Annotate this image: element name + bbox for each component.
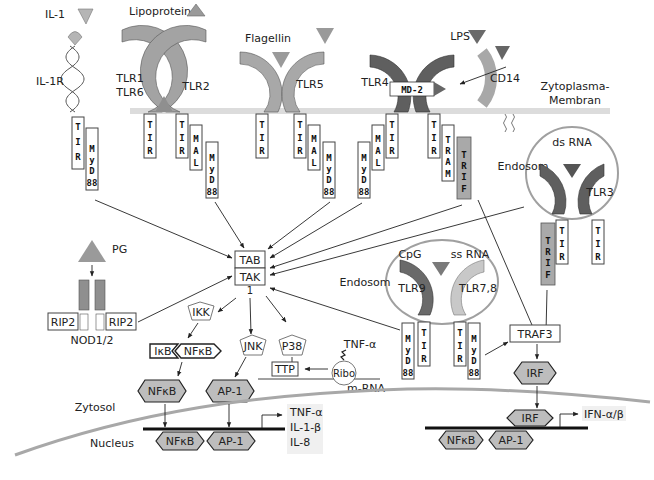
- svg-text:IKK: IKK: [192, 306, 210, 319]
- svg-text:AP-1: AP-1: [219, 435, 244, 448]
- svg-text:I: I: [259, 133, 264, 143]
- svg-text:T: T: [147, 120, 153, 130]
- svg-text:T: T: [445, 135, 451, 145]
- svg-text:TRAF3: TRAF3: [517, 328, 553, 341]
- tab-tak-complex: TAB TAK 1: [235, 251, 265, 296]
- svg-text:CD14: CD14: [490, 72, 520, 85]
- svg-text:NFκB: NFκB: [166, 435, 195, 448]
- il1-receptor-group: IL-1 IL-1R T I R M y D 88: [36, 8, 98, 190]
- svg-text:88: 88: [324, 187, 335, 197]
- svg-text:I: I: [421, 341, 426, 351]
- svg-text:y: y: [361, 164, 367, 174]
- svg-text:M: M: [375, 134, 381, 144]
- svg-text:T: T: [259, 120, 265, 130]
- tlr4-group: LPS TLR4 MD-2 CD14 T I R M A L M y D 88 …: [358, 30, 520, 199]
- svg-text:I: I: [389, 133, 394, 143]
- svg-text:TLR2: TLR2: [181, 80, 210, 93]
- svg-text:D: D: [405, 356, 411, 366]
- svg-text:M: M: [445, 169, 451, 179]
- svg-text:M: M: [311, 134, 317, 144]
- svg-text:R: R: [421, 354, 427, 364]
- svg-text:IκB: IκB: [154, 345, 171, 358]
- svg-text:P38: P38: [282, 340, 303, 353]
- svg-text:TLR4: TLR4: [360, 76, 389, 89]
- svg-text:M: M: [361, 153, 367, 163]
- cytosol-label: Zytosol: [75, 401, 116, 414]
- svg-text:R: R: [457, 354, 463, 364]
- svg-text:88: 88: [469, 368, 480, 378]
- pg-ligand-icon: [78, 240, 106, 262]
- tlr3-endosome-group: ds RNA Endosom TLR3 T I R T I R T R I F: [498, 127, 618, 285]
- svg-text:I: I: [559, 239, 564, 249]
- membrane-label-1: Zytoplasma-: [540, 80, 609, 93]
- svg-text:TLR9: TLR9: [397, 282, 426, 295]
- svg-text:R: R: [445, 146, 451, 156]
- svg-text:y: y: [209, 164, 215, 174]
- svg-text:M: M: [89, 144, 95, 154]
- ikb-nfkb-group: IκB NFκB NFκB AP-1: [138, 323, 254, 402]
- svg-text:R: R: [147, 146, 153, 156]
- svg-text:R: R: [431, 146, 437, 156]
- svg-text:y: y: [326, 164, 332, 174]
- membrane-label-2: Membran: [549, 94, 601, 107]
- svg-text:M: M: [209, 153, 215, 163]
- svg-text:I: I: [75, 137, 80, 147]
- svg-text:A: A: [375, 146, 381, 156]
- endosome-label-2: Endosom: [340, 276, 391, 289]
- svg-text:T: T: [431, 120, 437, 130]
- svg-text:R: R: [559, 252, 565, 262]
- il1r-label: IL-1R: [36, 75, 64, 88]
- svg-text:I: I: [457, 341, 462, 351]
- svg-text:R: R: [75, 152, 81, 162]
- svg-text:I: I: [431, 133, 436, 143]
- svg-text:M: M: [193, 134, 199, 144]
- svg-text:TLR5: TLR5: [295, 78, 324, 91]
- svg-text:F: F: [461, 184, 466, 194]
- svg-text:NFκB: NFκB: [184, 345, 213, 358]
- svg-text:y: y: [89, 155, 95, 165]
- svg-text:L: L: [193, 158, 199, 168]
- svg-text:AP-1: AP-1: [499, 434, 524, 447]
- svg-text:D: D: [326, 175, 332, 185]
- svg-text:MD-2: MD-2: [401, 85, 423, 95]
- flagellin-label: Flagellin: [245, 32, 291, 45]
- svg-text:ss RNA: ss RNA: [451, 248, 490, 261]
- svg-text:m-RNA: m-RNA: [347, 382, 386, 395]
- svg-text:R: R: [389, 146, 395, 156]
- svg-text:M: M: [405, 334, 411, 344]
- svg-text:R: R: [461, 161, 467, 171]
- svg-text:Ribo: Ribo: [333, 368, 355, 379]
- svg-text:TLR7,8: TLR7,8: [458, 282, 497, 295]
- svg-text:T: T: [75, 122, 81, 132]
- nucleus-label: Nucleus: [90, 437, 134, 450]
- svg-text:R: R: [297, 146, 303, 156]
- svg-text:R: R: [595, 252, 601, 262]
- svg-text:88: 88: [403, 368, 414, 378]
- svg-text:L: L: [311, 158, 317, 168]
- svg-text:L: L: [375, 158, 381, 168]
- cytokine-il8: IL-8: [290, 436, 310, 449]
- il1-label: IL-1: [45, 8, 65, 21]
- svg-text:NFκB: NFκB: [148, 385, 177, 398]
- svg-text:R: R: [259, 146, 265, 156]
- svg-text:I: I: [147, 133, 152, 143]
- lipoprotein-label: Lipoprotein: [129, 5, 191, 18]
- svg-text:R: R: [545, 247, 551, 257]
- svg-text:T: T: [461, 150, 467, 160]
- svg-text:TAB: TAB: [239, 254, 261, 267]
- svg-text:CpG: CpG: [398, 248, 421, 261]
- svg-text:88: 88: [87, 178, 98, 188]
- svg-text:NOD1/2: NOD1/2: [70, 334, 113, 347]
- svg-text:D: D: [361, 175, 367, 185]
- tlr5-ectodomain-left: [240, 52, 282, 112]
- svg-text:R: R: [179, 146, 185, 156]
- flagellin-ligand-icon: [316, 28, 334, 44]
- svg-text:I: I: [179, 133, 184, 143]
- svg-text:I: I: [461, 172, 466, 182]
- svg-text:T: T: [457, 328, 463, 338]
- svg-text:D: D: [209, 175, 215, 185]
- svg-text:T: T: [179, 120, 185, 130]
- svg-text:A: A: [445, 157, 451, 167]
- svg-text:1: 1: [247, 285, 253, 296]
- tlr9-tlr78-endosome-group: CpG ss RNA Endosom TLR9 TLR7,8 T I R M y…: [340, 240, 498, 379]
